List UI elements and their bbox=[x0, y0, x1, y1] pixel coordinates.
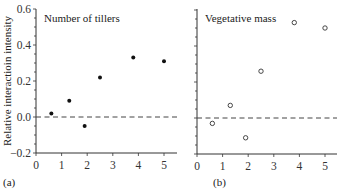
y-tick-label: −0.2 bbox=[10, 147, 31, 159]
data-point bbox=[49, 111, 53, 115]
data-point bbox=[259, 69, 263, 73]
y-tick-label: 0.4 bbox=[17, 39, 32, 51]
y-tick-label: 0.6 bbox=[17, 3, 32, 15]
x-tick-label: 3 bbox=[271, 160, 277, 172]
x-tick-label: 5 bbox=[322, 160, 328, 172]
x-tick-label: 1 bbox=[220, 160, 226, 172]
data-point bbox=[67, 99, 71, 103]
chart-figure: −0.20.00.20.40.6Relative interactioin in… bbox=[0, 0, 343, 191]
x-tick-label: 4 bbox=[297, 160, 303, 172]
data-point bbox=[98, 75, 102, 79]
data-point bbox=[243, 136, 247, 140]
data-point bbox=[323, 26, 327, 30]
x-tick-label: 3 bbox=[110, 159, 116, 171]
x-tick-label: 0 bbox=[194, 160, 200, 172]
data-point bbox=[162, 59, 166, 63]
data-point bbox=[228, 103, 232, 107]
x-tick-label: 0 bbox=[33, 159, 39, 171]
x-tick-label: 2 bbox=[84, 159, 90, 171]
panel-label: (a) bbox=[3, 176, 16, 189]
data-point bbox=[292, 20, 296, 24]
y-tick-label: 0.0 bbox=[17, 111, 32, 123]
data-point bbox=[210, 121, 214, 125]
data-point bbox=[131, 56, 135, 60]
x-tick-label: 5 bbox=[161, 159, 167, 171]
y-tick-label: 0.2 bbox=[17, 75, 32, 87]
x-tick-label: 1 bbox=[59, 159, 65, 171]
panel-title: Vegetative mass bbox=[205, 12, 276, 24]
panel-title: Number of tillers bbox=[44, 12, 120, 24]
y-axis-label: Relative interactioin intensity bbox=[1, 15, 13, 146]
x-tick-label: 2 bbox=[245, 160, 251, 172]
panel-label: (b) bbox=[213, 176, 226, 189]
data-point bbox=[83, 124, 87, 128]
x-tick-label: 4 bbox=[136, 159, 142, 171]
